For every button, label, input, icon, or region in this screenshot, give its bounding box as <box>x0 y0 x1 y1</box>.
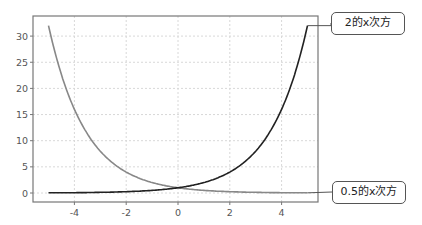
y-tick-label: 20 <box>16 83 28 94</box>
leader-0.5-pow-x <box>308 192 333 193</box>
y-tick-label: 15 <box>16 109 28 120</box>
plot-frame <box>33 16 318 202</box>
x-tick-label: 2 <box>227 207 233 218</box>
leader-2-pow-x <box>308 23 332 26</box>
label-2-pow-x: 2的x次方 <box>331 12 405 35</box>
x-tick-label: -2 <box>121 207 130 218</box>
y-tick-label: 25 <box>16 57 28 68</box>
y-tick-label: 30 <box>16 31 28 42</box>
x-tick-label: 0 <box>175 207 181 218</box>
y-tick-label: 10 <box>16 135 28 146</box>
y-tick-label: 5 <box>22 161 28 172</box>
x-tick-label: -4 <box>70 207 79 218</box>
label-0.5-pow-x: 0.5的x次方 <box>332 181 406 204</box>
x-tick-label: 4 <box>279 207 285 218</box>
y-tick-label: 0 <box>22 188 28 199</box>
